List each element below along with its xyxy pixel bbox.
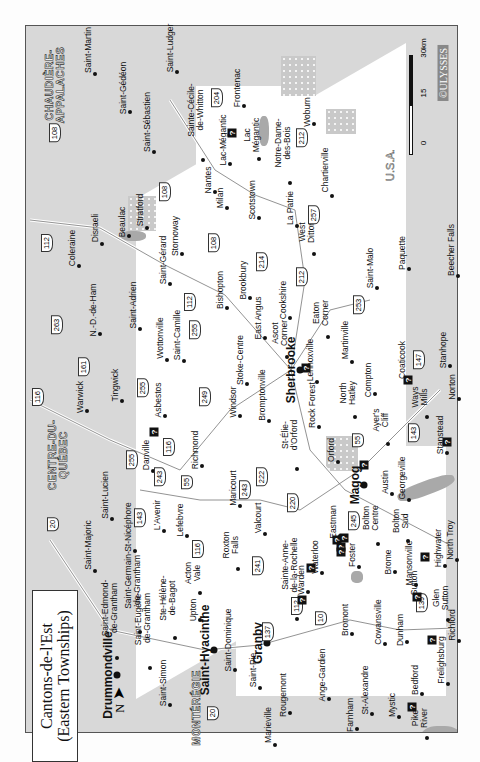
town-marker bbox=[128, 110, 132, 114]
town-marker bbox=[407, 267, 411, 271]
town-label-upton: Upton bbox=[189, 599, 198, 622]
tourist-info-icon: ? bbox=[340, 534, 349, 543]
town-marker bbox=[353, 415, 357, 419]
town-label-compton: Compton bbox=[364, 363, 373, 398]
town-marker bbox=[448, 364, 452, 368]
town-label-glen-sutton: Glen Sutton bbox=[432, 586, 450, 611]
route-shield-143: 143 bbox=[134, 509, 146, 528]
town-label-saint-sebastien: Saint-Sébastien bbox=[143, 92, 152, 152]
town-marker bbox=[148, 666, 152, 670]
north-label: N bbox=[113, 704, 127, 713]
tourist-info-icon: ? bbox=[150, 428, 159, 437]
town-marker bbox=[145, 226, 149, 230]
town-marker bbox=[320, 571, 324, 575]
town-marker bbox=[98, 332, 102, 336]
tourist-info-icon: ? bbox=[302, 364, 311, 373]
town-marker bbox=[355, 727, 359, 731]
town-marker bbox=[201, 158, 205, 162]
town-marker bbox=[370, 712, 374, 716]
scale-tick-0: 0 bbox=[419, 141, 428, 145]
route-shield-116: 116 bbox=[163, 438, 175, 456]
route-shield-241: 241 bbox=[252, 557, 264, 576]
town-marker bbox=[306, 590, 310, 594]
town-label-saint-martin: Saint-Martin bbox=[84, 27, 93, 73]
town-label-beaulac: Beaulac bbox=[118, 207, 127, 238]
town-label-lac-megantic: Lac-Mégantic bbox=[219, 114, 228, 165]
town-label-stoke-centre: Stoke-Centre bbox=[236, 335, 245, 385]
route-shield-243: 243 bbox=[154, 468, 166, 487]
town-marker bbox=[225, 206, 229, 210]
town-label-dunham: Dunham bbox=[396, 614, 405, 646]
town-label-woburn: Woburn bbox=[303, 97, 312, 127]
town-marker bbox=[350, 360, 354, 364]
town-label-richmond: Richmond bbox=[191, 431, 200, 469]
town-label-saint-adrien: Saint-Adrien bbox=[129, 282, 138, 329]
tourist-info-icon: ? bbox=[443, 438, 452, 447]
town-label-north-hatley: North Hatley bbox=[339, 381, 357, 405]
town-label-saint-edmond-de-grantham: Saint-Edmond- de-Grantham bbox=[101, 580, 119, 637]
town-label-east-angus: East Angus bbox=[254, 296, 263, 339]
town-label-mystic: Mystic bbox=[388, 693, 397, 717]
route-shield-214: 214 bbox=[256, 253, 268, 272]
route-shield-204: 204 bbox=[211, 89, 223, 108]
town-label-roxton-falls: Roxton Falls bbox=[222, 532, 240, 559]
town-marker bbox=[138, 327, 142, 331]
town-label-stornoway: Stornoway bbox=[171, 216, 180, 256]
route-shield-245: 245 bbox=[348, 512, 360, 531]
town-marker bbox=[93, 569, 97, 573]
route-shield-55: 55 bbox=[352, 433, 364, 447]
route-shield-108: 108 bbox=[49, 124, 61, 143]
town-label-wottonville: Wottonville bbox=[156, 317, 165, 358]
town-label-beecher-falls: Beecher Falls bbox=[447, 224, 456, 276]
route-shield-249: 249 bbox=[199, 388, 211, 407]
town-marker bbox=[273, 743, 277, 747]
route-shield-112: 112 bbox=[184, 293, 196, 311]
town-marker bbox=[375, 286, 379, 290]
town-marker bbox=[248, 296, 252, 300]
route-shield-212: 212 bbox=[296, 268, 308, 287]
town-marker bbox=[405, 640, 409, 644]
town-label-highwater: Highwater bbox=[434, 529, 443, 567]
town-marker bbox=[258, 686, 262, 690]
town-marker bbox=[393, 570, 397, 574]
town-label-lennoxville: Lennoxville bbox=[306, 339, 315, 382]
town-marker bbox=[120, 399, 124, 403]
tourist-info-icon: ? bbox=[298, 596, 307, 605]
town-marker bbox=[127, 234, 131, 238]
town-label-lefebvre: Lefebvre bbox=[176, 503, 185, 536]
town-label-farnham: Farnham bbox=[346, 698, 355, 732]
town-label-georgeville: Georgeville bbox=[398, 457, 407, 500]
town-label-saint-simon: Saint-Simon bbox=[159, 660, 168, 706]
town-marker bbox=[200, 464, 204, 468]
town-label-acton-vale: Acton Vale bbox=[184, 562, 202, 584]
town-label-valcourt: Valcourt bbox=[254, 503, 263, 534]
town-label-marieville: Marieville bbox=[264, 707, 273, 743]
town-label-saint-camille: Saint-Camille bbox=[173, 310, 182, 361]
town-label-norton: Norton bbox=[448, 374, 457, 400]
town-marker bbox=[446, 682, 450, 686]
town-label-saint-gerard: Saint-Gérard bbox=[159, 236, 168, 285]
town-label-milan: Milan bbox=[216, 188, 225, 208]
town-label-notre-dame-des-bois: Notre-Dame- des-Bois bbox=[274, 118, 292, 167]
town-label-ascot-corner: Ascot Corner bbox=[271, 320, 289, 346]
tourist-info-icon: ? bbox=[228, 129, 237, 138]
route-shield-222: 222 bbox=[256, 468, 268, 487]
town-marker bbox=[175, 70, 179, 74]
town-label-north-troy: North Troy bbox=[446, 520, 455, 560]
town-marker bbox=[100, 242, 104, 246]
town-marker bbox=[295, 467, 299, 471]
town-marker bbox=[312, 252, 316, 256]
route-shield-143: 143 bbox=[408, 424, 420, 443]
town-marker bbox=[185, 534, 189, 538]
town-marker bbox=[456, 274, 460, 278]
map-title-box: Cantons-de-l'Est(Eastern Townships) bbox=[32, 590, 78, 762]
town-marker bbox=[376, 542, 380, 546]
town-marker bbox=[238, 414, 242, 418]
town-label-saint-eugene-de-grantham: Saint-Eugène- de-Grantham bbox=[134, 591, 152, 645]
town-marker bbox=[168, 282, 172, 286]
town-marker bbox=[457, 639, 461, 643]
town-label-la-patrie: La Patrie bbox=[286, 191, 295, 225]
town-label-chartierville: Chartierville bbox=[321, 148, 330, 193]
town-label-ange-gardien: Ange-Gardien bbox=[318, 649, 327, 702]
tourist-info-icon: ? bbox=[404, 376, 413, 385]
